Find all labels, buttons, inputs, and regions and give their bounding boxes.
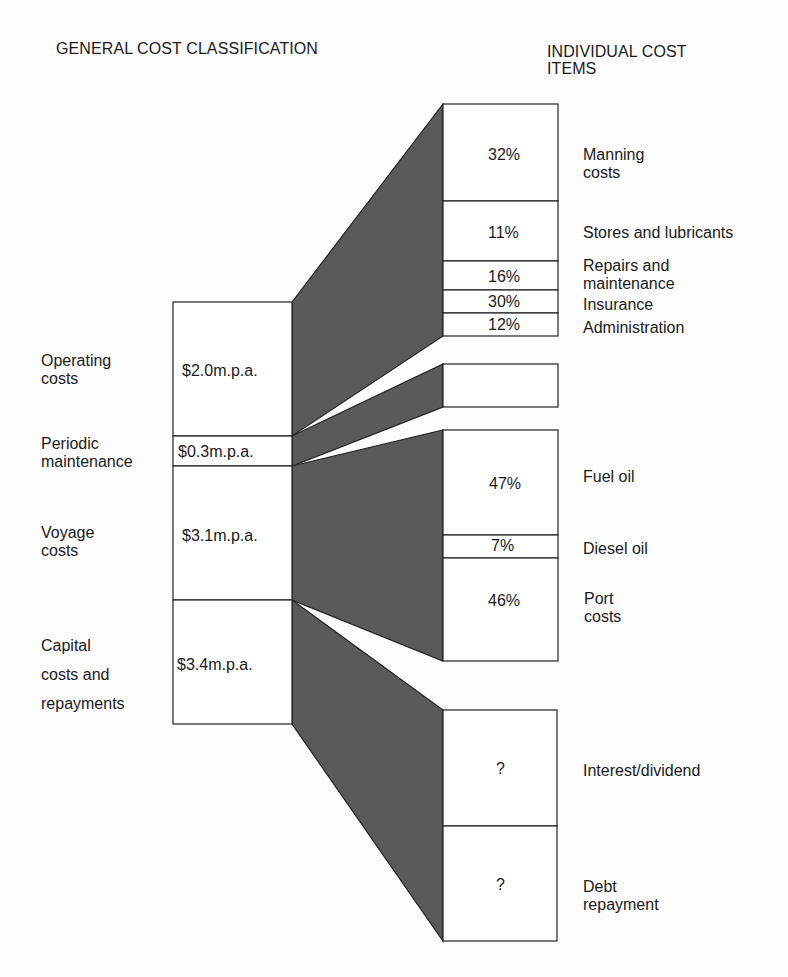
general-label-operating: Operating costs [41,352,111,388]
item-label-debt: Debt repayment [583,878,659,914]
general-label-voyage: Voyage costs [41,524,94,560]
item-pct-stores: 11% [488,224,519,242]
item-label-stores: Stores and lubricants [583,224,733,242]
left-column-header: GENERAL COST CLASSIFICATION [56,40,318,57]
item-label-diesel-oil: Diesel oil [583,540,648,558]
right-header-line-2: ITEMS [547,60,687,77]
item-pct-insurance: 30% [488,293,520,311]
item-pct-debt: ? [496,876,505,894]
item-label-interest: Interest/dividend [583,762,700,780]
general-label-capital: Capital costs and repayments [41,637,125,713]
item-pct-repairs: 16% [488,268,520,286]
right-column-header: INDIVIDUAL COST ITEMS [547,43,687,77]
item-label-port-costs: Port costs [584,590,621,626]
item-label-administration: Administration [583,319,684,337]
general-value-periodic: $0.3m.p.a. [178,443,254,461]
item-label-insurance: Insurance [583,296,653,314]
general-value-capital: $3.4m.p.a. [177,656,253,674]
item-label-manning: Manning costs [583,146,644,182]
flow-connectors [0,0,788,977]
item-pct-interest: ? [496,760,505,778]
item-pct-fuel-oil: 47% [489,475,521,493]
item-pct-port-costs: 46% [488,592,520,610]
item-pct-administration: 12% [488,316,520,334]
item-label-repairs: Repairs and maintenance [583,257,675,293]
general-value-voyage: $3.1m.p.a. [182,527,258,545]
item-label-fuel-oil: Fuel oil [583,468,635,486]
right-header-line-1: INDIVIDUAL COST [547,43,687,60]
item-pct-manning: 32% [488,146,520,164]
general-value-operating: $2.0m.p.a. [182,362,258,380]
item-pct-diesel-oil: 7% [491,537,514,555]
general-label-periodic: Periodic maintenance [41,435,133,471]
